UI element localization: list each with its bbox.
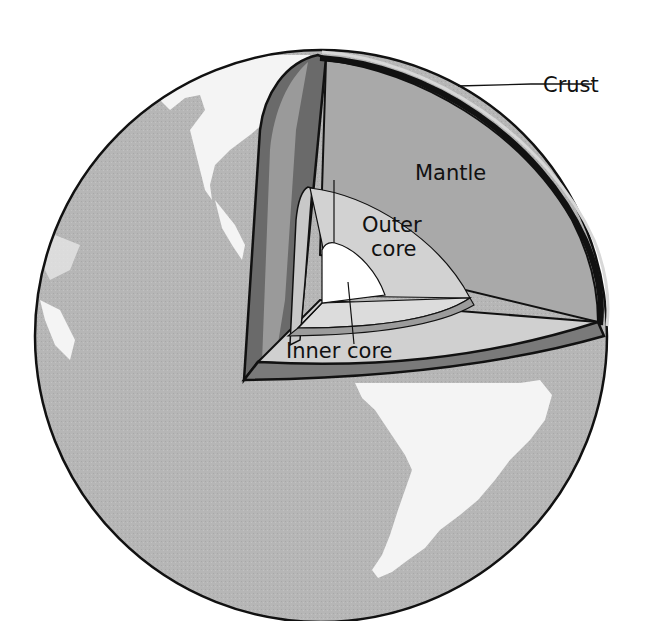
earth-layers-diagram: Crust Mantle Outer core Inner core xyxy=(0,0,648,621)
label-inner-core: Inner core xyxy=(286,339,393,363)
label-crust: Crust xyxy=(543,73,599,97)
cutaway xyxy=(244,52,608,380)
label-mantle: Mantle xyxy=(415,161,486,185)
crust-leader-line-2 xyxy=(458,84,531,86)
label-outer-core-line2: core xyxy=(371,237,417,261)
label-outer-core-line1: Outer xyxy=(362,213,422,237)
diagram-canvas: Crust Mantle Outer core Inner core xyxy=(0,0,648,621)
